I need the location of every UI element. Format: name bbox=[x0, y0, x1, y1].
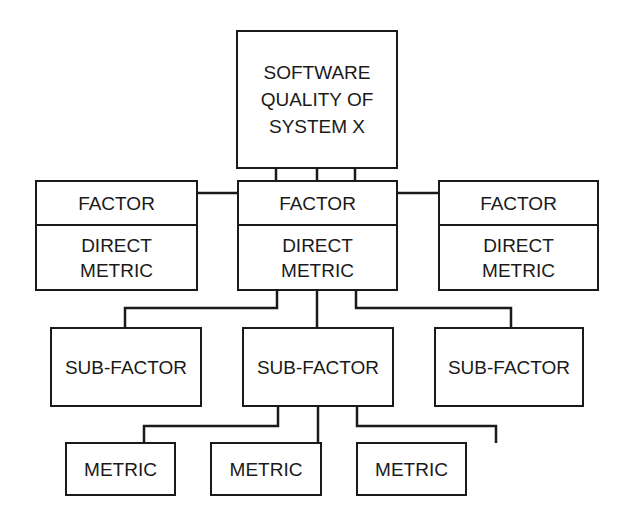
factor-title: FACTOR bbox=[440, 182, 597, 226]
direct-metric-line-2: METRIC bbox=[80, 258, 153, 283]
direct-metric: DIRECT METRIC bbox=[440, 226, 597, 289]
metric-node-left: METRIC bbox=[65, 442, 176, 496]
root-line-3: SYSTEM X bbox=[269, 113, 365, 140]
root-line-2: QUALITY OF bbox=[261, 86, 374, 113]
direct-metric-line-2: METRIC bbox=[482, 258, 555, 283]
direct-metric-line-1: DIRECT bbox=[81, 233, 152, 258]
root-node-software-quality: SOFTWARE QUALITY OF SYSTEM X bbox=[236, 30, 398, 169]
sub-factor-label: SUB-FACTOR bbox=[244, 329, 392, 405]
metric-label: METRIC bbox=[67, 444, 174, 494]
sub-factor-label: SUB-FACTOR bbox=[52, 329, 200, 405]
metric-node-right: METRIC bbox=[356, 442, 467, 496]
factor-node-center: FACTOR DIRECT METRIC bbox=[237, 180, 398, 291]
metric-label: METRIC bbox=[212, 444, 320, 494]
factor-node-right: FACTOR DIRECT METRIC bbox=[438, 180, 599, 291]
direct-metric-line-2: METRIC bbox=[281, 258, 354, 283]
direct-metric-line-1: DIRECT bbox=[282, 233, 353, 258]
direct-metric: DIRECT METRIC bbox=[37, 226, 196, 289]
factor-title: FACTOR bbox=[239, 182, 396, 226]
direct-metric-line-1: DIRECT bbox=[483, 233, 554, 258]
sub-factor-node-left: SUB-FACTOR bbox=[50, 327, 202, 407]
metric-node-center: METRIC bbox=[210, 442, 322, 496]
factor-node-left: FACTOR DIRECT METRIC bbox=[35, 180, 198, 291]
metric-label: METRIC bbox=[358, 444, 465, 494]
factor-title: FACTOR bbox=[37, 182, 196, 226]
sub-factor-node-center: SUB-FACTOR bbox=[242, 327, 394, 407]
sub-factor-node-right: SUB-FACTOR bbox=[434, 327, 584, 407]
root-line-1: SOFTWARE bbox=[264, 59, 371, 86]
sub-factor-label: SUB-FACTOR bbox=[436, 329, 582, 405]
direct-metric: DIRECT METRIC bbox=[239, 226, 396, 289]
